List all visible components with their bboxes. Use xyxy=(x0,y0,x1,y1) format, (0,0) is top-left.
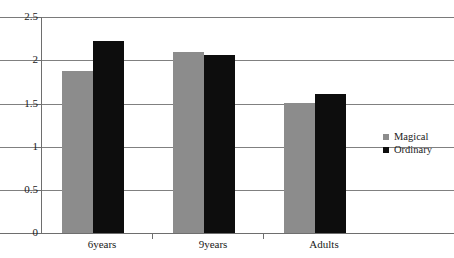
ytick-label-1_5: 1.5 xyxy=(0,98,38,109)
bar-ordinary-adults xyxy=(315,94,346,233)
xtick-label-adults: Adults xyxy=(269,238,379,251)
ytick-label-0_5: 0.5 xyxy=(0,184,38,195)
ytick-label-1: 1 xyxy=(0,141,38,152)
ytick-label-2: 2 xyxy=(0,54,38,65)
xtick-label-9years: 9years xyxy=(158,238,268,251)
axis-baseline xyxy=(0,233,454,234)
legend-item-ordinary: Ordinary xyxy=(383,143,432,156)
ytick-label-0: 0 xyxy=(0,227,38,238)
chart-legend: Magical Ordinary xyxy=(383,130,432,156)
bar-magical-9years xyxy=(173,52,204,233)
bar-ordinary-9years xyxy=(204,55,235,233)
legend-label-magical: Magical xyxy=(394,130,428,143)
bar-ordinary-6years xyxy=(93,41,124,233)
ordinary-swatch-icon xyxy=(383,147,389,153)
magical-swatch-icon xyxy=(383,134,389,140)
xtick-label-6years: 6years xyxy=(47,238,157,251)
bar-magical-6years xyxy=(62,71,93,233)
bar-magical-adults xyxy=(284,103,315,233)
legend-label-ordinary: Ordinary xyxy=(394,143,432,156)
bar-chart-figure: 2.5 2 1.5 1 0.5 0 6years 9years Adults M… xyxy=(0,0,454,258)
ytick-label-2_5: 2.5 xyxy=(0,11,38,22)
plot-area xyxy=(41,17,373,233)
legend-item-magical: Magical xyxy=(383,130,432,143)
